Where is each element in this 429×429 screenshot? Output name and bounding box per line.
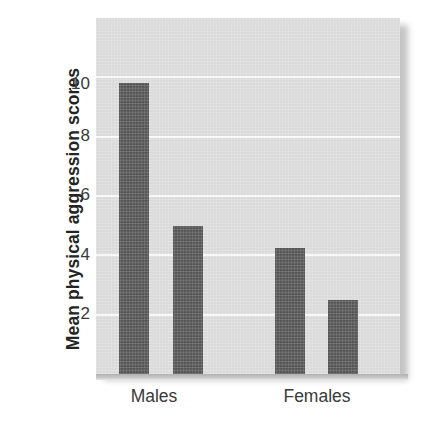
y-tick-label-2: 2 bbox=[56, 305, 90, 322]
bar-chart-figure: Mean physical aggression scores 10 8 6 4… bbox=[0, 0, 429, 429]
bar-males-1 bbox=[173, 226, 203, 374]
gridline-10 bbox=[96, 76, 400, 78]
x-axis-baseline bbox=[96, 374, 408, 380]
y-tick-label-8: 8 bbox=[56, 127, 90, 144]
y-axis-tick-labels: 10 8 6 4 2 bbox=[52, 0, 90, 429]
bar-males-0 bbox=[119, 83, 149, 374]
plot-area bbox=[96, 18, 400, 374]
y-tick-label-10: 10 bbox=[56, 75, 90, 92]
bar-females-0 bbox=[275, 248, 305, 374]
x-tick-label-females: Females bbox=[252, 388, 382, 406]
y-tick-label-4: 4 bbox=[56, 246, 90, 263]
bar-females-1 bbox=[328, 300, 358, 374]
y-tick-label-6: 6 bbox=[56, 186, 90, 203]
x-tick-label-males: Males bbox=[96, 388, 212, 406]
